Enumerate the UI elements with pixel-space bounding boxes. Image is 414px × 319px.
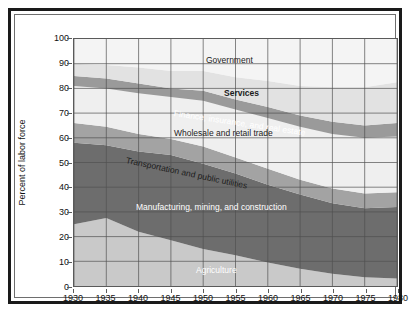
y-tick-mark-40 (67, 187, 72, 188)
x-tick-label-1960: 1960 (258, 293, 278, 303)
x-tick-mark-1935 (106, 289, 107, 293)
y-tick-mark-100 (67, 38, 72, 39)
y-tick-label-30: 30 (17, 208, 69, 217)
x-tick-label-1955: 1955 (225, 293, 245, 303)
x-tick-mark-1980 (398, 289, 399, 293)
y-tick-label-10: 10 (17, 258, 69, 267)
x-tick-label-1975: 1975 (355, 293, 375, 303)
x-tick-label-1950: 1950 (193, 293, 213, 303)
x-tick-label-1930: 1930 (63, 293, 83, 303)
y-tick-label-100: 100 (17, 34, 69, 43)
x-tick-label-1980: 1980 (388, 293, 408, 303)
x-tick-mark-1955 (236, 289, 237, 293)
y-tick-mark-20 (67, 237, 72, 238)
y-axis-ticks: 0102030405060708090100 (15, 38, 69, 287)
x-tick-mark-1950 (203, 289, 204, 293)
x-tick-mark-1945 (171, 289, 172, 293)
y-tick-label-80: 80 (17, 83, 69, 92)
y-tick-mark-50 (67, 163, 72, 164)
y-tick-mark-0 (67, 287, 72, 288)
x-tick-mark-1930 (73, 289, 74, 293)
y-tick-label-0: 0 (17, 283, 69, 292)
x-tick-label-1965: 1965 (290, 293, 310, 303)
y-tick-label-20: 20 (17, 233, 69, 242)
y-tick-mark-80 (67, 88, 72, 89)
y-tick-label-90: 90 (17, 58, 69, 67)
x-tick-label-1970: 1970 (323, 293, 343, 303)
x-tick-mark-1940 (138, 289, 139, 293)
y-tick-mark-90 (67, 63, 72, 64)
y-tick-label-40: 40 (17, 183, 69, 192)
y-tick-label-70: 70 (17, 108, 69, 117)
x-tick-label-1940: 1940 (128, 293, 148, 303)
figure-outer-frame: Percent of labor force 01020304050607080… (8, 8, 402, 304)
x-tick-mark-1965 (301, 289, 302, 293)
y-tick-mark-60 (67, 138, 72, 139)
x-tick-mark-1960 (268, 289, 269, 293)
y-tick-mark-70 (67, 113, 72, 114)
x-tick-label-1945: 1945 (160, 293, 180, 303)
figure-inner-frame: Percent of labor force 01020304050607080… (14, 14, 396, 298)
y-tick-mark-10 (67, 262, 72, 263)
y-tick-label-50: 50 (17, 158, 69, 167)
y-tick-label-60: 60 (17, 133, 69, 142)
x-tick-mark-1975 (366, 289, 367, 293)
plot-svg (74, 39, 397, 286)
stacked-area-chart: Percent of labor force 01020304050607080… (15, 15, 395, 297)
y-tick-mark-30 (67, 212, 72, 213)
plot-area: Government Services Finance, insurance, … (73, 38, 398, 287)
x-tick-label-1935: 1935 (95, 293, 115, 303)
x-axis-ticks: 1930193519401945195019551960196519701975… (73, 289, 398, 307)
x-tick-mark-1970 (333, 289, 334, 293)
